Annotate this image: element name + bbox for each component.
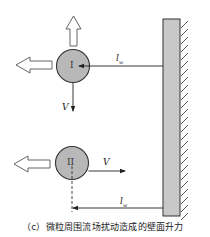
wall-lift-diagram (0, 0, 210, 237)
particle-1-distance-label: lw (116, 54, 123, 65)
particle-2 (14, 147, 163, 213)
wall-hatching (181, 21, 188, 220)
distance-subscript: w (119, 59, 123, 65)
particle-1-velocity-label: V (62, 103, 69, 112)
particle-1 (16, 16, 163, 111)
particle-2-label: II (67, 158, 74, 167)
particle-1-label: I (70, 61, 74, 70)
particle-2-velocity-label: V (103, 158, 110, 167)
particle-2-distance-label: lw (120, 197, 127, 208)
distance-subscript: w (123, 202, 127, 208)
lift-arrow-up-icon (66, 16, 81, 46)
lift-arrow-left-1-icon (16, 57, 52, 73)
figure-caption: （c）微粒周围流场扰动造成的壁面升力 (22, 220, 210, 233)
wall (163, 19, 188, 220)
lift-arrow-left-2-icon (14, 156, 50, 172)
